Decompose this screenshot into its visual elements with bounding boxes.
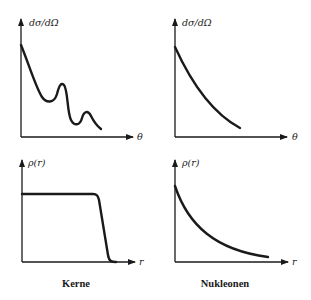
panel-nukleonen-density — [175, 160, 288, 262]
y-axis-label: dσ/dΩ — [29, 17, 59, 28]
panel-kerne-cross-section — [21, 19, 133, 137]
x-axis-label: θ — [137, 131, 143, 142]
density-curve — [175, 186, 268, 257]
diagram-canvas — [0, 0, 311, 300]
y-axis-label: ρ(r) — [28, 157, 46, 168]
cross-section-curve — [21, 45, 101, 129]
panel-kerne-density — [22, 160, 135, 262]
panel-nukleonen-cross-section — [175, 19, 287, 137]
caption-nukleonen: Nukleonen — [201, 278, 249, 289]
x-axis-label: r — [292, 256, 297, 267]
diagram: dσ/dΩ θ dσ/dΩ θ ρ(r) r ρ(r) r Kerne Nukl… — [0, 0, 311, 300]
caption-kerne: Kerne — [62, 278, 90, 289]
x-axis-label: r — [139, 256, 144, 267]
cross-section-curve — [175, 47, 240, 128]
x-axis-label: θ — [292, 131, 298, 142]
y-axis-label: dσ/dΩ — [182, 17, 212, 28]
density-curve — [22, 194, 116, 262]
y-axis-label: ρ(r) — [182, 157, 200, 168]
